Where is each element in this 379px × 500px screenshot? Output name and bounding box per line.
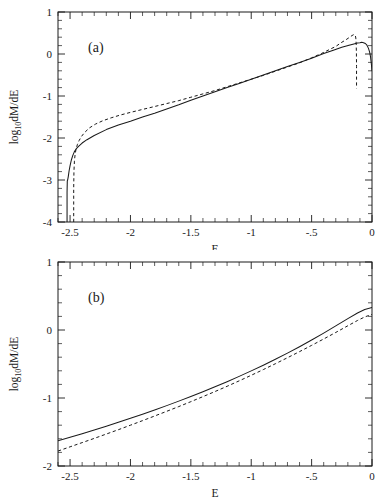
data-curves — [67, 35, 372, 222]
x-tick-label: -2.5 — [61, 226, 79, 238]
y-tick-label: -3 — [43, 174, 53, 186]
x-tick-label: 0 — [369, 226, 375, 238]
curve-dashed — [74, 35, 357, 222]
plot-frame — [58, 262, 372, 466]
y-tick-label: 0 — [47, 324, 53, 336]
x-axis-label: E — [211, 487, 218, 499]
x-tick-label: -.5 — [306, 226, 318, 238]
y-tick-labels: -4-3-2-101 — [43, 6, 53, 228]
y-tick-labels: -2-101 — [43, 256, 53, 472]
x-tick-label: -2.5 — [61, 470, 79, 482]
y-axis-label: log10dM/dE — [8, 90, 23, 145]
x-tick-label: -1.5 — [182, 470, 200, 482]
x-tick-label: -.5 — [306, 470, 318, 482]
y-tick-label: -1 — [43, 90, 52, 102]
x-tick-label: -2 — [126, 470, 135, 482]
data-curves — [58, 308, 372, 451]
x-tick-label: -1 — [247, 470, 256, 482]
y-tick-label: 1 — [47, 6, 53, 18]
plot-canvas-b: -2.5-2-1.5-1-.50-2-101Elog10dM/dE(b) — [0, 250, 379, 500]
y-tick-label: 1 — [47, 256, 53, 268]
x-tick-labels: -2.5-2-1.5-1-.50 — [61, 470, 375, 482]
x-tick-label: -2 — [126, 226, 135, 238]
x-tick-labels: -2.5-2-1.5-1-.50 — [61, 226, 375, 238]
y-tick-label: -2 — [43, 132, 52, 144]
y-axis-label: log10dM/dE — [8, 337, 23, 392]
y-tick-label: -4 — [43, 216, 53, 228]
curve-dashed — [58, 314, 372, 451]
panel-tag: (a) — [88, 40, 104, 56]
x-tick-label: -1.5 — [182, 226, 200, 238]
y-tick-label: -1 — [43, 392, 52, 404]
x-tick-label: -1 — [247, 226, 256, 238]
curve-solid — [58, 308, 372, 441]
x-tick-label: 0 — [369, 470, 375, 482]
panel-b: -2.5-2-1.5-1-.50-2-101Elog10dM/dE(b) — [0, 250, 379, 500]
y-tick-label: -2 — [43, 460, 52, 472]
plot-canvas-a: -2.5-2-1.5-1-.50-4-3-2-101Elog10dM/dE(a) — [0, 0, 379, 250]
tick-marks — [58, 12, 372, 222]
panel-a: -2.5-2-1.5-1-.50-4-3-2-101Elog10dM/dE(a) — [0, 0, 379, 250]
plot-frame — [58, 12, 372, 222]
x-axis-label: E — [211, 243, 218, 250]
tick-marks — [58, 262, 372, 466]
curve-solid — [67, 42, 372, 222]
y-tick-label: 0 — [47, 48, 53, 60]
panel-tag: (b) — [88, 290, 105, 306]
figure-two-panel-plot: -2.5-2-1.5-1-.50-4-3-2-101Elog10dM/dE(a)… — [0, 0, 379, 500]
